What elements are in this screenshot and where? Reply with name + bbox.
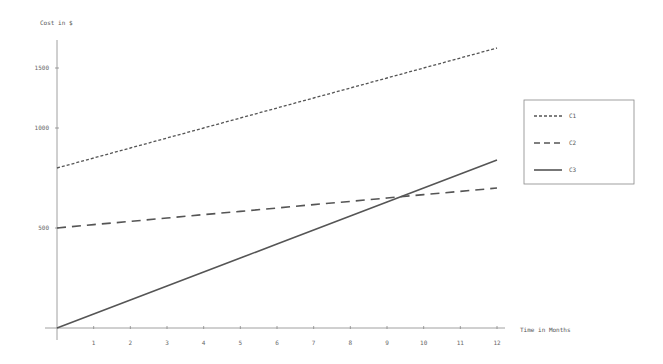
y-axis: 15001000500 — [35, 40, 59, 340]
y-tick-label: 1500 — [35, 64, 50, 71]
x-tick-label: 11 — [457, 339, 465, 346]
x-tick-label: 1 — [92, 339, 96, 346]
x-tick-label: 5 — [239, 339, 243, 346]
x-tick-label: 8 — [349, 339, 353, 346]
legend: C1C2C3 — [524, 100, 634, 184]
series-line-c3 — [57, 160, 497, 328]
legend-label-c3: C3 — [569, 166, 577, 173]
legend-label-c1: C1 — [569, 112, 577, 119]
legend-box — [524, 100, 634, 184]
x-tick-label: 4 — [202, 339, 206, 346]
x-tick-label: 7 — [312, 339, 316, 346]
series-line-c2 — [57, 188, 497, 228]
x-tick-label: 6 — [275, 339, 279, 346]
y-tick-label: 500 — [38, 224, 49, 231]
x-tick-label: 2 — [129, 339, 133, 346]
legend-label-c2: C2 — [569, 139, 577, 146]
y-tick-label: 1000 — [35, 124, 50, 131]
x-tick-label: 3 — [165, 339, 169, 346]
x-tick-label: 12 — [493, 339, 501, 346]
x-tick-label: 10 — [420, 339, 428, 346]
x-axis-title: Time in Months — [520, 326, 571, 333]
y-axis-title: Cost in $ — [40, 19, 73, 26]
series-line-c1 — [57, 48, 497, 168]
line-chart: Cost in $ 15001000500 123456789101112 Ti… — [0, 0, 663, 364]
x-tick-label: 9 — [385, 339, 389, 346]
x-axis: 123456789101112 — [45, 326, 505, 346]
series-lines — [57, 48, 497, 328]
